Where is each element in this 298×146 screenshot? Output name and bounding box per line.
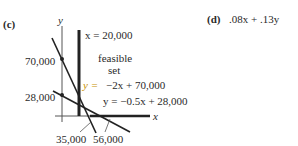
region-label-set: set (108, 64, 120, 76)
y-tick-70000: 70,000 (25, 55, 55, 67)
part-c-label: (c) (3, 18, 15, 30)
y-axis-label: y (58, 14, 63, 26)
eq-line2: y = −0.5x + 28,000 (103, 95, 188, 107)
x-tick-56000: 56,000 (93, 133, 123, 145)
pointer-35000 (80, 122, 91, 132)
x-tick-35000: 35,000 (56, 133, 86, 145)
point-0-70000 (60, 57, 64, 61)
point-0-28000 (60, 93, 64, 97)
eq-line1-rhs: −2x + 70,000 (106, 79, 165, 91)
eq-vertical: x = 20,000 (85, 29, 132, 41)
eq-line1-lhs: y = (83, 79, 98, 91)
part-d-label: (d) (207, 13, 220, 25)
y-tick-28000: 28,000 (25, 91, 55, 103)
region-label-feasible: feasible (98, 52, 132, 64)
x-axis-label: x (153, 110, 158, 122)
part-d-expression: .08x + .13y (229, 13, 279, 25)
pointer-56000 (105, 119, 110, 132)
